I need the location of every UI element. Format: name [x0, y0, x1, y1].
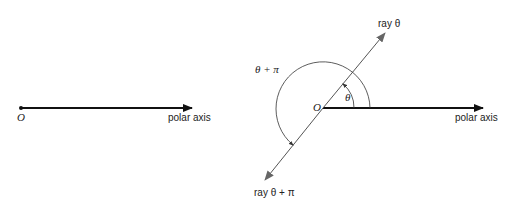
theta-plus-pi-label: θ + π	[255, 63, 279, 75]
ray-theta	[323, 33, 385, 108]
left-figure: O polar axis	[17, 106, 211, 123]
polar-diagram: O polar axis O θ θ + π ray θ ray θ + π p…	[0, 0, 509, 203]
origin-label: O	[313, 101, 321, 113]
polar-axis-label: polar axis	[455, 112, 498, 123]
theta-label: θ	[345, 91, 351, 103]
ray-theta-plus-pi	[265, 108, 323, 180]
polar-axis-label: polar axis	[168, 112, 211, 123]
ray-theta-label: ray θ	[378, 18, 401, 29]
right-figure: O θ θ + π ray θ ray θ + π polar axis	[254, 18, 498, 198]
ray-theta-plus-pi-label: ray θ + π	[254, 187, 295, 198]
origin-label: O	[17, 111, 25, 123]
theta-plus-pi-arc	[276, 62, 370, 145]
